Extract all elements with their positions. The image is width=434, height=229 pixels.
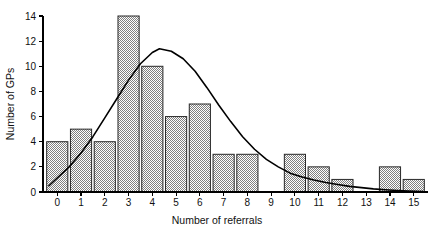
x-tick-label: 8 (245, 197, 251, 208)
y-tick-label: 0 (30, 187, 36, 198)
y-tick-label: 2 (30, 161, 36, 172)
x-tick-label: 13 (361, 197, 373, 208)
histogram-bar (237, 154, 258, 192)
histogram-bar (94, 142, 115, 192)
histogram-bar (166, 117, 187, 192)
y-tick-label: 4 (30, 136, 36, 147)
histogram-bar (118, 16, 139, 192)
x-tick-label: 3 (126, 197, 132, 208)
x-tick-label: 15 (408, 197, 420, 208)
x-tick-label: 6 (197, 197, 203, 208)
histogram-figure: 0123456789101112131415 02468101214 Numbe… (0, 0, 434, 229)
y-tick-label: 6 (30, 111, 36, 122)
histogram-bar (189, 104, 210, 192)
x-tick-label: 5 (173, 197, 179, 208)
x-tick-label: 0 (54, 197, 60, 208)
chart-background (0, 0, 434, 229)
x-axis-title: Number of referrals (172, 214, 262, 226)
histogram-bar (284, 154, 305, 192)
y-axis-title: Number of GPs (4, 68, 16, 140)
x-tick-label: 9 (268, 197, 274, 208)
x-tick-label: 11 (313, 197, 324, 208)
histogram-bar (379, 167, 400, 192)
chart-canvas: 0123456789101112131415 02468101214 Numbe… (0, 0, 434, 229)
x-tick-label: 2 (102, 197, 108, 208)
histogram-bar (142, 66, 163, 192)
x-tick-label: 14 (384, 197, 396, 208)
x-tick-label: 12 (337, 197, 349, 208)
y-tick-label: 14 (25, 11, 37, 22)
x-tick-label: 4 (150, 197, 156, 208)
x-tick-label: 1 (78, 197, 84, 208)
y-tick-label: 10 (25, 61, 37, 72)
x-tick-label: 10 (289, 197, 301, 208)
y-tick-label: 8 (30, 86, 36, 97)
histogram-bar (213, 154, 234, 192)
x-tick-label: 7 (221, 197, 227, 208)
y-tick-label: 12 (25, 36, 37, 47)
